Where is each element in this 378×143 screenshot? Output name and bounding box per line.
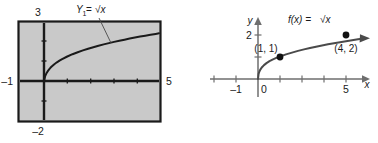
calc-function-label-expression: √x [95,4,106,15]
plane-curve-arrowhead [360,34,370,42]
calc-function-label-equals: = [86,4,92,15]
plane-y-tick-label-2: 2 [246,29,252,41]
plane-x-tick-label-neg1: –1 [230,83,242,95]
calc-label-ymin: –2 [32,125,44,137]
panel-coordinate-plane: (1, 1) (4, 2) f(x) = √x y x –1 0 5 2 [210,14,371,97]
plane-point-1-1 [277,54,284,61]
plane-y-axis-name: y [247,15,254,26]
plane-y-axis-arrowhead [254,17,262,25]
figure-svg: Y 1 = √x 3 –2 –1 5 [0,0,378,143]
plane-function-label: f(x) = √x [288,14,331,25]
plane-x-tick-label-5: 5 [343,83,349,95]
plane-function-label-name: f(x) = [288,14,311,25]
calc-label-ymax: 3 [35,6,41,18]
plane-point-label-1-1: (1, 1) [254,43,277,54]
calc-function-label: Y 1 = √x [76,4,106,17]
plane-x-axis-name: x [364,79,371,90]
panel-calculator-window: Y 1 = √x 3 –2 –1 5 [1,4,172,137]
calc-label-xmin: –1 [1,75,13,87]
plane-function-label-expression: √x [320,14,331,25]
plane-x-tick-label-0: 0 [261,83,267,95]
figure-root: Y 1 = √x 3 –2 –1 5 [0,0,378,143]
calc-label-xmax: 5 [166,75,172,87]
plane-point-label-4-2: (4, 2) [334,43,357,54]
plane-point-4-2 [343,32,350,39]
